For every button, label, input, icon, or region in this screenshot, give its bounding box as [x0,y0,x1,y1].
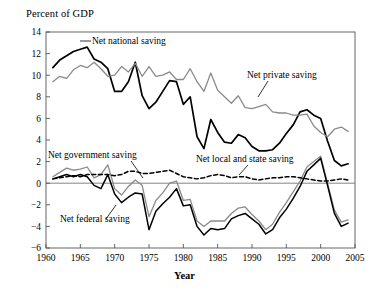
y-tick-label: 4 [36,135,41,145]
x-tick-label: 1985 [208,253,227,263]
x-tick-label: 1980 [174,253,193,263]
x-tick-label: 1975 [140,253,159,263]
x-tick-label: 1965 [71,253,90,263]
y-tick-label: 14 [32,27,42,37]
x-axis-ticks: 1960196519701975198019851990199520002005 [37,244,365,263]
x-tick-label: 1995 [277,253,296,263]
y-tick-label: −4 [31,222,41,232]
net-government-saving-label: Net government saving [48,150,137,160]
x-tick-label: 2005 [346,253,365,263]
y-tick-label: 2 [36,157,41,167]
y-tick-label: 6 [36,114,41,124]
y-tick-label: 0 [36,179,41,189]
x-tick-label: 1970 [105,253,124,263]
y-tick-label: −2 [31,200,41,210]
x-tick-label: 1990 [243,253,262,263]
net-private-saving-label: Net private saving [247,70,317,80]
y-tick-label: 12 [32,49,42,59]
saving-rates-line-chart: −6−4−202468101214 1960196519701975198019… [0,0,372,294]
y-tick-label: 10 [32,71,42,81]
y-tick-label: −6 [31,243,41,253]
y-tick-label: 8 [36,92,41,102]
net-national-saving-label: Net national saving [92,36,166,46]
y-axis-ticks: −6−4−202468101214 [31,27,50,253]
net-federal-saving-label: Net federal saving [60,214,130,224]
x-tick-label: 2000 [311,253,330,263]
annotation-layer: Net national savingNet private savingNet… [48,36,317,224]
net-local-and-state-saving-label: Net local and state saving [196,154,294,164]
x-tick-label: 1960 [37,253,56,263]
